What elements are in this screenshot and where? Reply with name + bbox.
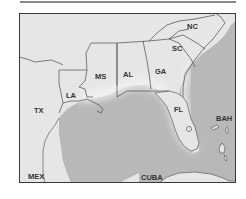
lake-okeechobee bbox=[186, 126, 191, 131]
label-florida: FL bbox=[174, 105, 184, 114]
label-bahamas: BAH bbox=[216, 114, 232, 123]
top-divider-line bbox=[20, 1, 236, 3]
map-frame: NC SC GA AL MS LA TX FL BAH MEX CUBA bbox=[19, 13, 236, 183]
label-georgia: GA bbox=[155, 67, 167, 76]
label-mississippi: MS bbox=[95, 72, 106, 81]
label-north-carolina: NC bbox=[187, 22, 198, 31]
label-louisiana: LA bbox=[66, 91, 77, 100]
label-mexico: MEX bbox=[28, 172, 44, 181]
label-alabama: AL bbox=[123, 70, 133, 79]
map-svg: NC SC GA AL MS LA TX FL BAH MEX CUBA bbox=[19, 13, 236, 183]
label-texas: TX bbox=[34, 106, 44, 115]
label-cuba: CUBA bbox=[141, 173, 163, 182]
label-south-carolina: SC bbox=[172, 44, 183, 53]
